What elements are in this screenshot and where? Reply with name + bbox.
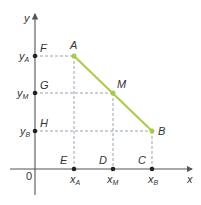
coordinate-diagram: y x 0 A M B F G H E D C yA yM yB xA xM x… (0, 0, 201, 205)
label-a: A (69, 39, 77, 51)
x-tick-xa: xA (69, 173, 81, 186)
label-h: H (40, 117, 48, 129)
x-tick-xm: xM (106, 173, 119, 186)
svg-text:xM: xM (106, 173, 119, 186)
label-f: F (40, 42, 48, 54)
x-tick-xb: xB (147, 173, 159, 186)
label-g: G (40, 79, 49, 91)
svg-text:yM: yM (16, 87, 29, 100)
label-c: C (138, 154, 146, 166)
y-tick-ya: yA (18, 50, 30, 63)
label-e: E (60, 154, 68, 166)
svg-text:xB: xB (147, 173, 159, 186)
point-e (72, 167, 77, 172)
x-axis-label: x (186, 173, 193, 185)
label-b: B (158, 125, 165, 137)
point-h (33, 129, 38, 134)
label-m: M (117, 78, 127, 90)
point-a (72, 54, 77, 59)
label-d: D (99, 154, 107, 166)
svg-text:yA: yA (18, 50, 30, 63)
point-f (33, 54, 38, 59)
point-g (33, 91, 38, 96)
point-c (150, 167, 155, 172)
y-tick-ym: yM (16, 87, 29, 100)
y-axis-label: y (23, 12, 31, 24)
point-d (111, 167, 116, 172)
origin-label: 0 (26, 170, 32, 182)
guide-lines (35, 56, 152, 169)
svg-text:xA: xA (69, 173, 81, 186)
y-tick-yb: yB (19, 125, 31, 138)
svg-text:yB: yB (19, 125, 31, 138)
point-m (111, 91, 116, 96)
point-b (150, 129, 155, 134)
